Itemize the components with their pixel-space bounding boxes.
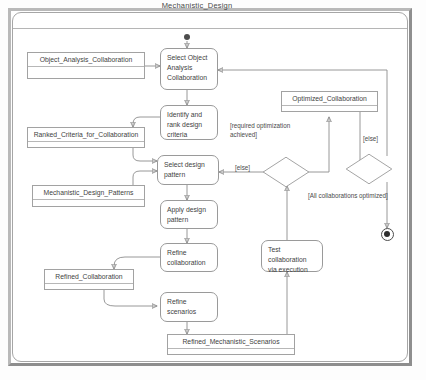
- guard-label-else-right: [else]: [363, 134, 378, 143]
- action-label: Test collaboration via execution: [268, 246, 308, 273]
- action-label: Identify and rank design criteria: [167, 111, 202, 138]
- object-node-mechanistic-design-patterns[interactable]: Mechanistic_Design_Patterns: [32, 185, 145, 207]
- object-node-refined-mechanistic-scenarios[interactable]: Refined_Mechanistic_Scenarios: [167, 334, 295, 355]
- action-apply-design-pattern[interactable]: Apply design pattern: [160, 200, 218, 229]
- guard-label-else-left: [else]: [235, 163, 250, 172]
- action-select-design-pattern[interactable]: Select design pattern: [157, 155, 219, 185]
- object-node-refined-collaboration[interactable]: Refined_Collaboration: [44, 269, 134, 290]
- action-test-collaboration-via-execution[interactable]: Test collaboration via execution: [261, 240, 323, 272]
- action-label: Apply design pattern: [167, 206, 206, 223]
- action-select-object-analysis-collaboration[interactable]: Select Object Analysis Collaboration: [160, 48, 218, 90]
- guard-label-required-optimization-achieved: [required optimization achieved]: [230, 121, 304, 140]
- object-node-body: [28, 142, 144, 147]
- object-node-body: [28, 67, 144, 78]
- action-label: Refine scenarios: [167, 298, 196, 315]
- object-node-body: [282, 106, 377, 111]
- action-label: Select Object Analysis Collaboration: [167, 54, 207, 81]
- action-refine-scenarios[interactable]: Refine scenarios: [160, 292, 218, 322]
- object-node-body: [45, 284, 133, 289]
- action-refine-collaboration[interactable]: Refine collaboration: [160, 243, 218, 272]
- guard-label-all-collaborations-optimized: [All collaborations optimized]: [308, 191, 388, 200]
- object-node-title: Mechanistic_Design_Patterns: [33, 186, 144, 200]
- object-node-title: Ranked_Criteria_for_Collaboration: [28, 128, 144, 142]
- final-node: [381, 228, 394, 241]
- frame-title-bar: [13, 13, 407, 29]
- object-node-body: [168, 349, 294, 354]
- object-node-body: [33, 200, 144, 206]
- object-node-optimized-collaboration[interactable]: Optimized_Collaboration: [281, 91, 378, 112]
- object-node-object-analysis-collaboration[interactable]: Object_Analysis_Collaboration: [27, 52, 145, 79]
- object-node-title: Refined_Mechanistic_Scenarios: [168, 335, 294, 349]
- initial-node: [184, 34, 190, 40]
- object-node-title: Object_Analysis_Collaboration: [28, 53, 144, 67]
- optimization-decision-node[interactable]: [262, 156, 310, 188]
- diagram-canvas: Mechanistic_Design: [0, 0, 426, 380]
- action-identify-and-rank-design-criteria[interactable]: Identify and rank design criteria: [160, 105, 218, 140]
- object-node-title: Refined_Collaboration: [45, 270, 133, 284]
- all-collaborations-decision-node[interactable]: [345, 153, 393, 185]
- action-label: Refine collaboration: [167, 249, 206, 266]
- page-title: Mechanistic_Design: [0, 1, 394, 10]
- object-node-ranked-criteria-for-collaboration[interactable]: Ranked_Criteria_for_Collaboration: [27, 127, 145, 148]
- object-node-title: Optimized_Collaboration: [282, 92, 377, 106]
- action-label: Select design pattern: [164, 161, 205, 178]
